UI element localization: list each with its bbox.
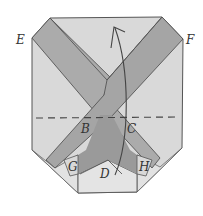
label-h: H <box>138 160 150 174</box>
label-d: D <box>99 167 110 181</box>
label-f: F <box>185 33 195 47</box>
label-g: G <box>68 160 78 174</box>
origami-diagram-svg: E F B C D G H <box>0 0 203 216</box>
label-b: B <box>80 122 90 136</box>
origami-diagram: E F B C D G H <box>0 0 203 216</box>
label-e: E <box>15 33 25 47</box>
label-c: C <box>127 122 136 136</box>
